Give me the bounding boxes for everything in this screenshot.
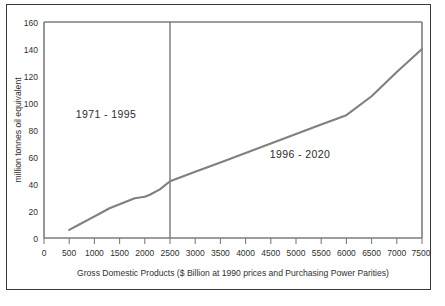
line-chart-svg: 160 140 120 100 80 60 40 20 0 0 500 1000… — [0, 0, 445, 306]
x-tick-label: 2000 — [135, 248, 154, 258]
x-tick-label: 2500 — [161, 248, 180, 258]
x-tick-label: 4000 — [236, 248, 255, 258]
chart-figure: 160 140 120 100 80 60 40 20 0 0 500 1000… — [0, 0, 445, 306]
x-tick-labels: 0 500 1000 1500 2000 2500 3000 3500 4000… — [42, 248, 431, 258]
x-tick-label: 1500 — [110, 248, 129, 258]
x-tick-label: 500 — [62, 248, 76, 258]
x-axis-title: Gross Domestic Products ($ Billion at 19… — [77, 268, 389, 278]
x-tick-label: 3500 — [211, 248, 230, 258]
annotation-right-period: 1996 - 2020 — [270, 148, 330, 160]
y-tick-label: 40 — [29, 180, 39, 190]
x-tick-label: 6500 — [362, 248, 381, 258]
x-tick-label: 4500 — [261, 248, 280, 258]
x-tick-label: 0 — [42, 248, 47, 258]
y-tick-label: 80 — [29, 126, 39, 136]
plot-frame — [44, 22, 422, 238]
annotation-left-period: 1971 - 1995 — [76, 108, 136, 120]
y-tick-label: 160 — [24, 18, 38, 28]
x-tick-label: 3000 — [186, 248, 205, 258]
x-tick-label: 6000 — [337, 248, 356, 258]
y-tick-label: 120 — [24, 72, 38, 82]
y-tick-label: 100 — [24, 99, 38, 109]
x-tick-marks — [44, 238, 422, 244]
data-series-line — [69, 49, 422, 230]
y-tick-label: 20 — [29, 207, 39, 217]
y-tick-label: 60 — [29, 153, 39, 163]
x-tick-label: 7000 — [387, 248, 406, 258]
x-tick-label: 5000 — [287, 248, 306, 258]
chart-page: 160 140 120 100 80 60 40 20 0 0 500 1000… — [0, 0, 445, 306]
x-tick-label: 1000 — [85, 248, 104, 258]
y-tick-label: 140 — [24, 45, 38, 55]
y-tick-label: 0 — [33, 234, 38, 244]
x-tick-label: 5500 — [312, 248, 331, 258]
y-axis-title: million tonnes oil equivalent — [13, 77, 23, 183]
y-tick-labels: 160 140 120 100 80 60 40 20 0 — [24, 18, 38, 244]
x-tick-label: 7500 — [412, 248, 431, 258]
